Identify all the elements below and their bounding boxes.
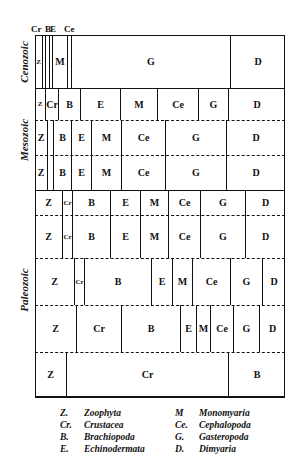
legend-name: Gasteropoda (199, 432, 249, 442)
row-paleozoic: ZCrBEMCeGD (35, 258, 285, 305)
cell-d: D (245, 190, 285, 215)
legend-item: G.Gasteropoda (175, 431, 251, 443)
cell-m: M (172, 258, 192, 305)
legend-item: Z.Zoophyta (60, 407, 145, 419)
era-label-cenozoic: Cenozoic (17, 22, 31, 102)
cell-m: M (120, 88, 157, 120)
cell-d: D (226, 155, 285, 190)
legend-abbr: Ce. (175, 419, 199, 431)
cell-e: E (80, 88, 120, 120)
row-mesozoic: ZCrBEMCeGD (35, 88, 285, 120)
cell-b: B (72, 215, 110, 258)
cell-g: G (200, 215, 245, 258)
cell-b: B (58, 88, 80, 120)
legend-right-column: MMonomyariaCe.CephalopodaG.GasteropodaD.… (175, 407, 251, 455)
cell-e: E (71, 120, 91, 155)
top-label: Cr (31, 25, 42, 34)
legend-abbr: M (175, 407, 199, 419)
row-cenozoic: ZMGD (35, 35, 285, 88)
cell-e: E (110, 215, 140, 258)
cell-g: G (230, 258, 262, 305)
legend-abbr: D. (175, 443, 199, 455)
legend-item: MMonomyaria (175, 407, 251, 419)
cell-z: Z (35, 190, 62, 215)
cell-d: D (226, 120, 285, 155)
legend-name: Dimyaria (199, 444, 236, 454)
top-label: E (50, 25, 56, 34)
cell-b: B (72, 190, 110, 215)
legend-abbr: G. (175, 431, 199, 443)
era-label-mesozoic: Mesozoic (17, 100, 31, 180)
cell-z: Z (35, 35, 42, 88)
legend-item: B.Brachiopoda (60, 431, 145, 443)
legend-abbr: E. (60, 443, 84, 455)
cell-g: G (200, 190, 245, 215)
cell-b: B (84, 258, 151, 305)
legend-name: Echinodermata (84, 444, 145, 454)
row-paleozoic: ZCrBEMCeGD (35, 215, 285, 258)
cell-z: Z (35, 120, 47, 155)
cell-m: M (140, 190, 168, 215)
cell-b: B (53, 120, 71, 155)
cell-d: D (262, 258, 285, 305)
cell-z: Z (35, 258, 74, 305)
cell-g: G (71, 35, 230, 88)
legend-item: Ce.Cephalopoda (175, 419, 251, 431)
legend-item: D.Dimyaria (175, 443, 251, 455)
cell-z: Z (35, 155, 47, 190)
legend-abbr: Cr. (60, 419, 84, 431)
legend-abbr: Z. (60, 407, 84, 419)
cell-d: D (245, 215, 285, 258)
fossil-proportion-diagram: CenozoicMesozoicPaleozoic CrBECe ZMGDZCr… (0, 0, 295, 400)
cell-d: D (228, 88, 285, 120)
cell-ce: Ce (157, 88, 198, 120)
cell-z: Z (35, 305, 76, 352)
top-label: Ce (64, 25, 75, 34)
row-paleozoic: ZCrB (35, 352, 285, 397)
cell-z: Z (35, 215, 62, 258)
cell-d: D (259, 305, 285, 352)
legend-item: Cr.Crustacea (60, 419, 145, 431)
legend-name: Monomyaria (199, 408, 250, 418)
cell-cr: Cr (76, 305, 121, 352)
legend-name: Brachiopoda (84, 432, 135, 442)
legend-name: Cephalopoda (199, 420, 251, 430)
cell-z: Z (35, 88, 45, 120)
legend-name: Zoophyta (84, 408, 121, 418)
solid-row-divider (35, 397, 285, 398)
cell-m: M (91, 155, 121, 190)
era-label-paleozoic: Paleozoic (17, 250, 31, 330)
cell-e: E (110, 190, 140, 215)
cell-m: M (52, 35, 67, 88)
cell-cr: Cr (62, 190, 72, 215)
cell-ce: Ce (121, 120, 165, 155)
cell-z: Z (35, 352, 66, 397)
cell-m: M (91, 120, 121, 155)
legend-item: E.Echinodermata (60, 443, 145, 455)
row-paleozoic: ZCrBEMCeGD (35, 190, 285, 215)
cell-m: M (196, 305, 210, 352)
row-mesozoic: ZBEMCeGD (35, 155, 285, 190)
cell-cr: Cr (62, 215, 72, 258)
cell-ce: Ce (121, 155, 165, 190)
cell-b: B (121, 305, 180, 352)
cell-e: E (180, 305, 196, 352)
cell-g: G (198, 88, 228, 120)
legend-abbr: B. (60, 431, 84, 443)
cell-cr: Cr (66, 352, 228, 397)
cell-ce: Ce (168, 215, 200, 258)
cell-b: B (228, 352, 285, 397)
cell-cr: Cr (74, 258, 84, 305)
cell-cr: Cr (45, 88, 58, 120)
cell-g: G (233, 305, 259, 352)
cell-e: E (71, 155, 91, 190)
cell-d: D (230, 35, 285, 88)
cell-g: G (165, 120, 226, 155)
legend-name: Crustacea (84, 420, 124, 430)
cell-ce: Ce (168, 190, 200, 215)
cell-g: G (165, 155, 226, 190)
row-mesozoic: ZBEMCeGD (35, 120, 285, 155)
row-paleozoic: ZCrBEMCeGD (35, 305, 285, 352)
cell-ce: Ce (210, 305, 233, 352)
cell-b: B (53, 155, 71, 190)
